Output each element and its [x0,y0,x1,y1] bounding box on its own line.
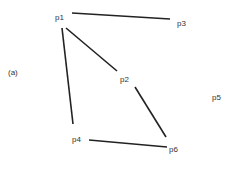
edge-p1-p4 [62,28,73,124]
node-label-p6: p6 [169,146,178,154]
panel-label: (a) [8,69,18,77]
graph-canvas [0,0,238,192]
edge-p4-p6 [89,140,167,147]
edge-p1-p3 [72,13,170,19]
node-label-p5: p5 [212,94,221,102]
node-label-p4: p4 [72,136,81,144]
edge-p1-p2 [66,28,117,71]
edge-p2-p6 [135,87,166,137]
node-label-p2: p2 [120,76,129,84]
node-label-p1: p1 [55,14,64,22]
node-label-p3: p3 [177,20,186,28]
